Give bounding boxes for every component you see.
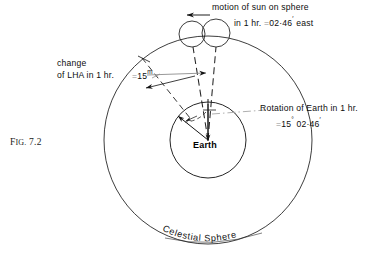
minute-symbol: ′ bbox=[292, 15, 293, 22]
lha-line1: change bbox=[57, 58, 86, 68]
sun-motion-line1: motion of sun on sphere bbox=[212, 2, 309, 12]
rotation-line1: Rotation of Earth in 1 hr. bbox=[260, 103, 358, 113]
rotation-minute-symbol: ′ bbox=[320, 116, 321, 123]
sun-after-one-hour-circle bbox=[179, 21, 205, 47]
degree-symbol: ° bbox=[291, 116, 294, 123]
rotation-caption: Rotation of Earth in 1 hr. =15° 02·46′ bbox=[260, 103, 358, 130]
lha-change-dashed-line bbox=[142, 58, 190, 118]
figure-canvas: Celestial Sphere FIG. 7.2 motion of sun … bbox=[0, 0, 379, 253]
lha-value-superscript: m bbox=[147, 68, 153, 75]
sun-motion-line2: in 1 hr. =02·46′ east bbox=[212, 14, 313, 29]
sun-motion-minutes: 02·46 bbox=[269, 17, 292, 27]
rotation-line2: =15° 02·46′ bbox=[260, 115, 358, 130]
figure-number: FIG. 7.2 bbox=[10, 137, 42, 147]
sun-motion-line2-prefix: in 1 hr. bbox=[234, 17, 264, 27]
sun-motion-caption: motion of sun on sphere in 1 hr. =02·46′… bbox=[212, 2, 313, 29]
lha-value-number: 15 bbox=[137, 71, 147, 81]
lha-line2: of LHA in 1 hr. bbox=[57, 70, 114, 80]
figure-number-smallcaps: IG. bbox=[15, 138, 26, 147]
earth-label: Earth bbox=[193, 140, 217, 150]
figure-number-value: 7.2 bbox=[29, 137, 41, 147]
rotation-minutes: 02·46 bbox=[297, 118, 320, 128]
earth-rotation-angle-arc-arrow bbox=[186, 116, 197, 121]
earth-rotated-radius bbox=[178, 116, 208, 140]
celestial-sphere-label: Celestial Sphere bbox=[161, 223, 238, 243]
rotation-degrees: 15 bbox=[281, 118, 291, 128]
rotation-caption-leader bbox=[212, 110, 266, 114]
lha-difference-arrow-reverse bbox=[146, 76, 195, 88]
lha-value-group: =15m bbox=[132, 69, 153, 81]
line-center-to-sun-initial bbox=[208, 47, 216, 140]
line-center-to-sun-moved bbox=[193, 47, 208, 140]
lha-caption: change of LHA in 1 hr. bbox=[57, 58, 114, 81]
sun-motion-direction: east bbox=[294, 17, 314, 27]
